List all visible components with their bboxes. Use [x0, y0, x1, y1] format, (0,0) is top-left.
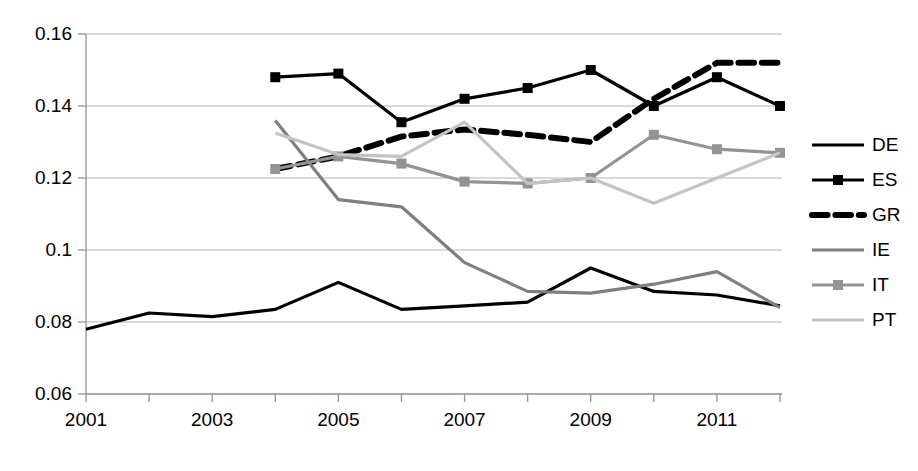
data-point-marker: [712, 72, 722, 82]
x-axis-tick-label: 2009: [570, 409, 612, 430]
x-axis-ticks: 200120032005200720092011: [65, 394, 780, 430]
y-axis-tick-label: 0.06: [35, 383, 72, 404]
x-axis-tick-label: 2007: [443, 409, 485, 430]
y-axis-tick-label: 0.08: [35, 311, 72, 332]
data-point-marker: [523, 83, 533, 93]
data-point-marker: [649, 130, 659, 140]
chart-canvas: 0.060.080.10.120.140.16 2001200320052007…: [0, 0, 918, 471]
legend-label: IT: [872, 274, 889, 295]
series-line: [275, 70, 780, 122]
legend-entry-gr[interactable]: GR: [812, 204, 901, 225]
legend-swatch-marker: [833, 175, 843, 185]
legend-entry-de[interactable]: DE: [812, 134, 898, 155]
legend-label: ES: [872, 169, 897, 190]
data-point-marker: [712, 144, 722, 154]
legend-entry-es[interactable]: ES: [812, 169, 897, 190]
x-axis-tick-label: 2001: [65, 409, 107, 430]
y-axis-ticks: 0.060.080.10.120.140.16: [35, 23, 86, 404]
data-point-marker: [333, 69, 343, 79]
x-axis-tick-label: 2003: [191, 409, 233, 430]
series-line: [275, 63, 780, 169]
data-point-marker: [775, 101, 785, 111]
data-point-marker: [396, 117, 406, 127]
data-point-marker: [396, 159, 406, 169]
legend-swatch-marker: [833, 280, 843, 290]
series-ie: [275, 120, 780, 307]
series-layer: [86, 63, 785, 329]
series-line: [275, 120, 780, 307]
legend-entry-it[interactable]: IT: [812, 274, 889, 295]
chart-legend: DEESGRIEITPT: [812, 134, 901, 330]
legend-label: DE: [872, 134, 898, 155]
data-point-marker: [586, 65, 596, 75]
series-de: [86, 268, 780, 329]
x-axis-tick-label: 2011: [696, 409, 737, 430]
x-axis-tick-label: 2005: [317, 409, 359, 430]
series-gr: [275, 63, 780, 169]
data-point-marker: [460, 177, 470, 187]
line-chart: 0.060.080.10.120.140.16 2001200320052007…: [0, 0, 918, 471]
series-it: [270, 130, 785, 189]
legend-label: GR: [872, 204, 901, 225]
data-point-marker: [460, 94, 470, 104]
series-line: [275, 135, 780, 184]
y-axis-tick-label: 0.1: [46, 239, 72, 260]
legend-entry-ie[interactable]: IE: [812, 239, 890, 260]
data-point-marker: [270, 72, 280, 82]
data-point-marker: [270, 164, 280, 174]
series-es: [270, 65, 785, 127]
legend-label: PT: [872, 309, 897, 330]
y-axis-tick-label: 0.14: [35, 95, 72, 116]
y-axis-tick-label: 0.12: [35, 167, 72, 188]
legend-entry-pt[interactable]: PT: [812, 309, 897, 330]
legend-label: IE: [872, 239, 890, 260]
y-axis-tick-label: 0.16: [35, 23, 72, 44]
series-line: [86, 268, 780, 329]
